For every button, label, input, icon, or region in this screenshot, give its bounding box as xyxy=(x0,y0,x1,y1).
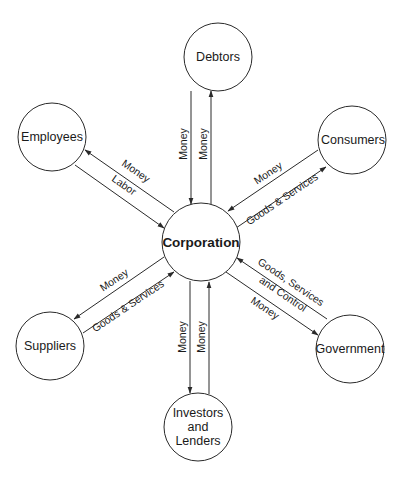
node-label-government: Government xyxy=(316,342,385,356)
node-label-debtors: Debtors xyxy=(196,50,240,64)
node-label-consumers: Consumers xyxy=(321,133,385,147)
edge-label-investors-in: Money xyxy=(195,320,207,352)
edge-label-debtors-out: Money xyxy=(177,127,189,159)
node-corporation: Corporation xyxy=(162,203,240,281)
node-investors-and-lenders: Investors and Lenders xyxy=(164,393,232,461)
node-debtors: Debtors xyxy=(184,23,252,91)
corporation-flow-diagram: Money Money Money Labor Money Goods & Se… xyxy=(0,0,403,479)
edge-label-investors-out: Money xyxy=(176,320,188,352)
node-label-investors-line1: Investors xyxy=(173,406,224,420)
node-suppliers: Suppliers xyxy=(16,312,84,380)
node-label-corporation: Corporation xyxy=(162,235,239,250)
node-label-investors-line3: Lenders xyxy=(175,434,220,448)
node-label-employees: Employees xyxy=(21,130,83,144)
node-label-investors-line2: and xyxy=(188,420,209,434)
edge-label-suppliers-out: Money xyxy=(97,265,130,293)
edge-label-government-out: Money xyxy=(249,294,282,322)
edge-label-debtors-in: Money xyxy=(197,127,209,159)
node-consumers: Consumers xyxy=(318,106,386,174)
node-government: Government xyxy=(316,315,385,383)
node-employees: Employees xyxy=(18,103,86,171)
edge-label-consumers-in: Money xyxy=(251,158,284,186)
node-label-suppliers: Suppliers xyxy=(24,339,76,353)
